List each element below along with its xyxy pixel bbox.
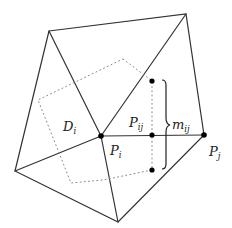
brace-m-ij <box>162 80 170 169</box>
node-p-ij <box>149 132 154 137</box>
label-p-i: Pi <box>109 143 122 160</box>
node-dual-top <box>149 78 154 83</box>
label-m-ij: mij <box>172 117 190 134</box>
edge-top-left-to-pi <box>49 31 101 136</box>
node-p-i <box>98 133 104 139</box>
dual-mesh-diagram: Di Pi Pij mij Pj <box>0 0 232 228</box>
label-p-ij: Pij <box>128 115 143 132</box>
label-d-i: Di <box>62 119 76 136</box>
label-p-j: Pj <box>208 144 221 161</box>
node-dual-bottom <box>149 167 154 172</box>
edge-bottom-left-to-pi <box>15 136 101 171</box>
node-p-j <box>201 132 207 138</box>
